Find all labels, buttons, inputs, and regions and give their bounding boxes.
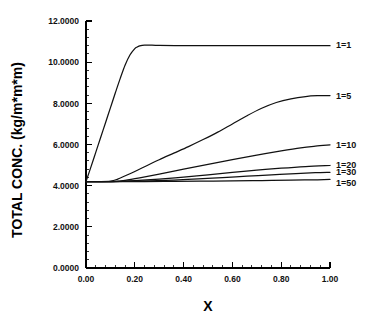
series-label-1-1: 1=1: [336, 40, 351, 50]
y-tick-label: 8.0000: [53, 99, 79, 109]
chart-canvas: 0.00002.00004.00006.00008.000010.000012.…: [0, 0, 377, 323]
y-tick-label: 10.0000: [48, 57, 79, 67]
series-curve-1-1: [86, 45, 330, 182]
x-tick-label: 0.80: [273, 274, 290, 284]
series-layer: [86, 45, 330, 182]
x-tick-label: 0.40: [175, 274, 192, 284]
y-tick-label: 0.0000: [53, 263, 79, 273]
series-label-1-10: 1=10: [336, 140, 356, 150]
chart-figure: 0.00002.00004.00006.00008.000010.000012.…: [0, 0, 377, 323]
tick-marks-layer: [86, 21, 330, 268]
series-label-1-50: 1=50: [336, 178, 356, 188]
y-tick-label: 6.0000: [53, 140, 79, 150]
series-label-1-5: 1=5: [336, 91, 351, 101]
y-axis-title: TOTAL CONC. (kg/m*m*m): [9, 62, 25, 238]
y-tick-label: 4.0000: [53, 181, 79, 191]
series-curve-1-5: [86, 96, 330, 182]
y-tick-label: 12.0000: [48, 16, 79, 26]
series-labels-layer: 1=11=51=101=201=301=50: [336, 40, 356, 188]
series-curve-1-10: [86, 145, 330, 182]
tick-labels-layer: 0.00002.00004.00006.00008.000010.000012.…: [48, 16, 338, 284]
series-label-1-30: 1=30: [336, 167, 356, 177]
y-tick-label: 2.0000: [53, 222, 79, 232]
axes-layer: [86, 21, 330, 268]
x-axis-title: X: [203, 298, 213, 314]
x-tick-label: 0.20: [127, 274, 144, 284]
x-tick-label: 1.00: [322, 274, 339, 284]
x-tick-label: 0.00: [78, 274, 95, 284]
x-tick-label: 0.60: [224, 274, 241, 284]
